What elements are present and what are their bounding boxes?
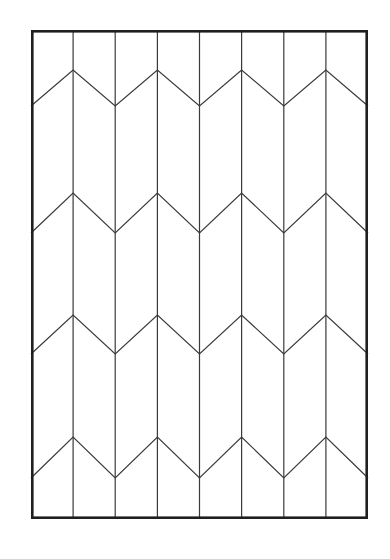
- chevron-pattern-svg: [0, 0, 390, 559]
- figure-root: [0, 0, 390, 559]
